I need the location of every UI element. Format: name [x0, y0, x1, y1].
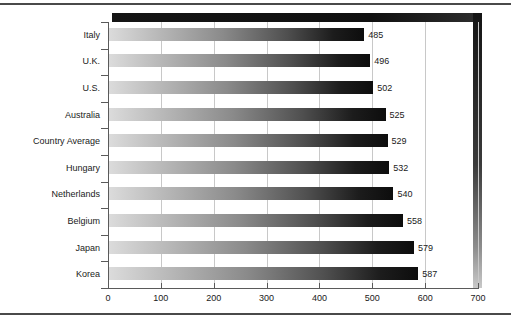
bar [108, 28, 364, 41]
x-axis-tick [425, 283, 426, 289]
x-axis-tick-label: 100 [153, 294, 168, 303]
category-label: Italy [0, 31, 100, 40]
bar [108, 267, 418, 280]
category-label: U.K. [0, 57, 100, 66]
x-axis-tick-label: 200 [206, 294, 221, 303]
x-axis-tick [319, 283, 320, 289]
y-axis-tick [101, 22, 108, 23]
y-axis-tick [101, 288, 108, 289]
y-axis-tick [101, 208, 108, 209]
x-axis-tick-label: 0 [105, 294, 110, 303]
category-label: U.S. [0, 84, 100, 93]
y-axis-tick [101, 261, 108, 262]
bar-value-label: 529 [392, 137, 407, 146]
bar-value-label: 502 [377, 84, 392, 93]
bar-value-label: 525 [390, 111, 405, 120]
y-axis-tick [101, 49, 108, 50]
y-axis-tick [101, 155, 108, 156]
x-axis-tick [161, 283, 162, 289]
y-axis-tick [101, 235, 108, 236]
bar-chart-figure: ItalyU.K.U.S.AustraliaCountry AverageHun… [0, 0, 511, 322]
bar [108, 108, 386, 121]
x-axis-tick [108, 283, 109, 289]
gridline [478, 22, 479, 288]
bar [108, 81, 373, 94]
category-label: Korea [0, 270, 100, 279]
y-axis-line [108, 22, 109, 289]
y-axis-tick [101, 102, 108, 103]
bar [108, 161, 389, 174]
category-label: Japan [0, 244, 100, 253]
x-axis-tick-label: 600 [418, 294, 433, 303]
y-axis-tick [101, 128, 108, 129]
category-label: Netherlands [0, 190, 100, 199]
y-axis-tick [101, 75, 108, 76]
x-axis-line [108, 288, 479, 289]
bar-value-label: 485 [368, 31, 383, 40]
chart-wall-top-shadow [112, 13, 482, 22]
bar [108, 134, 388, 147]
bar-value-label: 579 [418, 244, 433, 253]
category-label: Country Average [0, 137, 100, 146]
bar-value-label: 558 [407, 217, 422, 226]
y-axis-tick [101, 182, 108, 183]
x-axis-tick [267, 283, 268, 289]
bar-value-label: 496 [374, 57, 389, 66]
x-axis-tick [372, 283, 373, 289]
x-axis-tick-label: 500 [365, 294, 380, 303]
x-axis-tick [478, 283, 479, 289]
bar [108, 187, 393, 200]
bar-value-label: 532 [393, 164, 408, 173]
category-label: Hungary [0, 164, 100, 173]
x-axis-tick-label: 400 [312, 294, 327, 303]
bar [108, 54, 370, 67]
x-axis-tick [214, 283, 215, 289]
category-label: Belgium [0, 217, 100, 226]
x-axis-tick-label: 700 [470, 294, 485, 303]
x-axis-tick-label: 300 [259, 294, 274, 303]
bar [108, 241, 414, 254]
bar [108, 214, 403, 227]
bar-value-label: 587 [422, 270, 437, 279]
bar-value-label: 540 [397, 190, 412, 199]
y-axis-category-labels: ItalyU.K.U.S.AustraliaCountry AverageHun… [0, 0, 100, 322]
category-label: Australia [0, 111, 100, 120]
